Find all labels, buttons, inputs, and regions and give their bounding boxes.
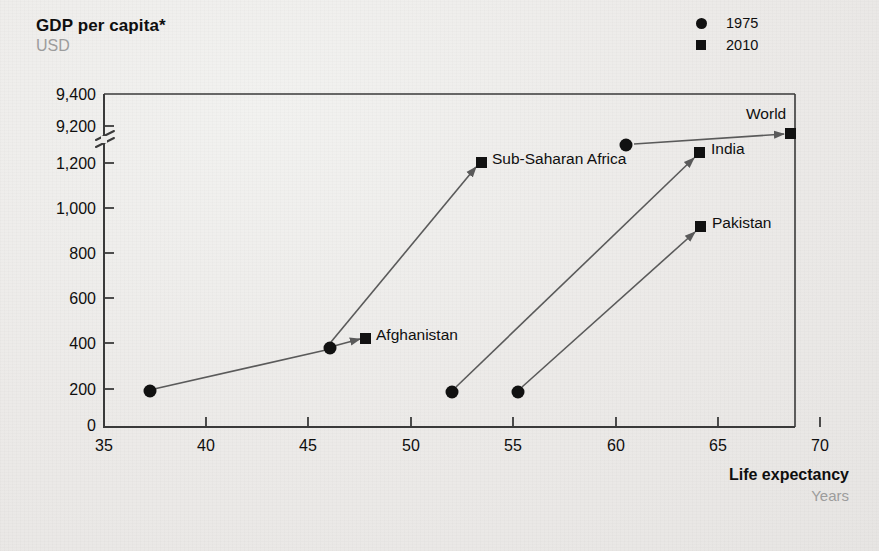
point-afghanistan-1975 xyxy=(324,342,337,355)
plot-svg xyxy=(0,0,879,551)
y-axis-ticks xyxy=(104,126,114,389)
point-label-india: India xyxy=(711,140,745,158)
arrow-world xyxy=(634,134,784,144)
point-afghanistan-2010 xyxy=(360,333,371,344)
point-world-2010 xyxy=(785,128,796,139)
arrow-sub-saharan-africa xyxy=(331,167,476,342)
markers-1975 xyxy=(144,139,633,399)
point-india-1975 xyxy=(446,386,459,399)
point-afghanistan-1975-a xyxy=(144,385,157,398)
point-label-afghanistan: Afghanistan xyxy=(376,326,458,344)
arrow-pakistan xyxy=(522,232,695,387)
arrow-afghanistan xyxy=(334,339,360,346)
point-label-sub-saharan-africa: Sub-Saharan Africa xyxy=(492,150,626,168)
arrow-india xyxy=(456,158,694,387)
x-axis-ticks xyxy=(206,417,820,427)
y-axis-break-mask xyxy=(101,136,107,143)
point-label-pakistan: Pakistan xyxy=(712,214,771,232)
point-sub-saharan-africa-2010 xyxy=(476,157,487,168)
point-india-2010 xyxy=(694,147,705,158)
point-pakistan-1975 xyxy=(512,386,525,399)
trajectory-arrows xyxy=(154,134,784,389)
point-pakistan-2010 xyxy=(695,221,706,232)
arrow-afghanistan-early xyxy=(154,350,326,389)
chart-root: GDP per capita* USD Life expectancy Year… xyxy=(0,0,879,551)
point-label-world: World xyxy=(746,105,786,123)
